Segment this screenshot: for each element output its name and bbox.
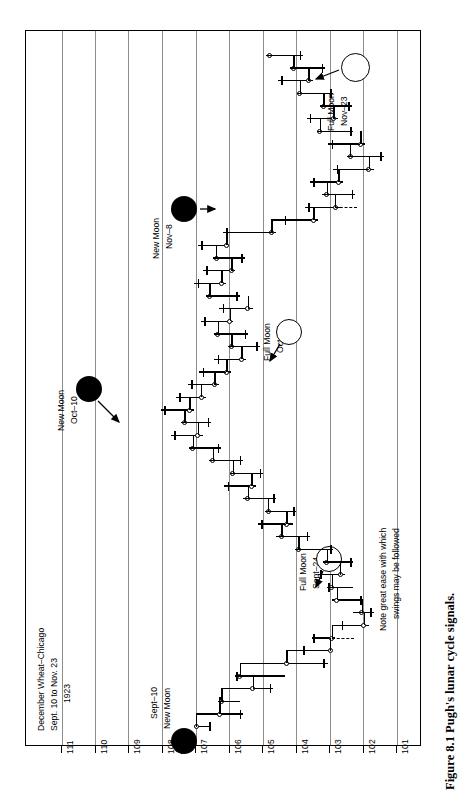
bar-open-tick — [293, 507, 295, 516]
bar-gap-dashed — [332, 638, 354, 639]
bar-connector — [281, 524, 282, 537]
bar-connector — [248, 486, 249, 499]
price-tick-mark-107 — [195, 746, 196, 753]
price-tick-mark-103 — [329, 746, 330, 753]
figure-caption: Figure 8.1 Pugh's lunar cycle signals. — [443, 593, 458, 790]
bar-open-tick — [330, 545, 332, 554]
bar-connector — [286, 511, 287, 524]
bar-open-tick — [330, 89, 332, 98]
bar-connector — [214, 372, 215, 385]
price-tick-109: 109 — [132, 739, 142, 754]
bar-open-tick — [350, 558, 352, 567]
bar-connector — [251, 473, 252, 486]
bar-gap-dashed — [335, 207, 357, 208]
bar-connector — [268, 499, 269, 512]
bar-connector — [226, 233, 227, 246]
bar-connector — [362, 600, 363, 613]
bar-connector — [369, 157, 370, 170]
bar-connector-lead — [196, 713, 218, 715]
bar-connector — [340, 562, 341, 575]
bar-connector — [216, 245, 217, 258]
bar-connector — [323, 93, 324, 106]
price-bars-layer — [26, 31, 422, 747]
bar-connector-lead — [265, 511, 275, 513]
bar-connector — [360, 131, 361, 144]
bar-connector — [213, 448, 214, 461]
bar-open-tick — [300, 51, 302, 60]
bar-connector — [226, 359, 227, 372]
bar-open-tick — [342, 621, 344, 630]
bar-connector-lead — [332, 599, 334, 601]
bar-connector-lead — [312, 637, 317, 639]
bar-connector-lead — [221, 688, 231, 690]
bar-connector-lead — [318, 574, 331, 576]
price-tick-mark-105 — [262, 746, 263, 753]
bar-connector-lead — [213, 257, 226, 259]
bar-connector — [253, 676, 254, 689]
bar-connector-lead — [209, 460, 219, 462]
bar-connector — [337, 587, 338, 600]
bar-connector — [298, 537, 299, 550]
price-tick-mark-101 — [396, 746, 397, 753]
bar-open-tick — [370, 608, 372, 617]
bar-connector — [327, 549, 328, 562]
bar-connector — [241, 347, 242, 360]
price-tick-104: 104 — [300, 739, 310, 754]
bar-connector-lead — [214, 359, 234, 361]
bar-connector — [198, 423, 199, 436]
price-tick-mark-111 — [61, 746, 62, 753]
bar-open-tick — [245, 330, 247, 339]
bar-open-tick — [352, 190, 354, 199]
bar-connector — [231, 334, 232, 347]
bar-connector — [350, 144, 351, 157]
bar-open-tick — [380, 152, 382, 161]
bar-open-tick — [307, 532, 309, 541]
bar-connector — [327, 182, 328, 195]
bar-connector-lead — [230, 473, 242, 475]
bar-open-tick — [208, 418, 210, 427]
bar-open-tick — [256, 342, 258, 351]
bar-connector-lead — [198, 245, 211, 247]
bar-open-tick — [348, 102, 350, 111]
bar-gap-dashed — [338, 144, 360, 145]
bar-connector — [209, 283, 210, 296]
bar-connector — [193, 435, 194, 448]
price-tick-101: 101 — [400, 739, 410, 754]
bar-connector — [332, 575, 333, 588]
bar-open-tick — [322, 64, 324, 73]
bar-connector-lead — [171, 435, 181, 437]
bar-connector — [184, 410, 185, 423]
bar-connector — [335, 195, 336, 208]
bar-open-tick — [240, 456, 242, 465]
bar-gap-dashed — [193, 448, 215, 449]
bar-connector — [308, 68, 309, 81]
bar-connector — [330, 638, 331, 651]
bar-connector-lead — [266, 55, 276, 57]
price-tick-mark-108 — [162, 746, 163, 753]
bar-connector — [364, 613, 365, 626]
bar-connector — [221, 689, 222, 702]
bar-connector — [219, 701, 220, 714]
bar-connector — [333, 106, 334, 119]
bar-open-tick — [303, 646, 305, 655]
price-tick-105: 105 — [266, 739, 276, 754]
price-tick-108: 108 — [166, 739, 176, 754]
price-tick-mark-106 — [229, 746, 230, 753]
bar-open-tick — [270, 684, 272, 693]
bar-open-tick — [273, 494, 275, 503]
bar-connector-lead — [278, 80, 291, 82]
bar-connector — [332, 625, 333, 638]
price-tick-107: 107 — [199, 739, 209, 754]
bar-connector-lead — [327, 587, 344, 589]
bar-connector — [233, 461, 234, 474]
chart-plot-area: December Wheat–Chicago Sept. 10 to Nov. … — [25, 30, 421, 746]
bar-connector-lead — [323, 561, 336, 563]
bar-connector-lead — [307, 118, 325, 120]
bar-connector-lead — [224, 485, 232, 487]
bar-connector — [230, 309, 231, 322]
bar-connector-lead — [322, 194, 342, 196]
bar-connector-lead — [297, 93, 307, 95]
bar-connector-lead — [333, 169, 368, 171]
bar-connector — [338, 169, 339, 182]
price-tick-mark-109 — [128, 746, 129, 753]
